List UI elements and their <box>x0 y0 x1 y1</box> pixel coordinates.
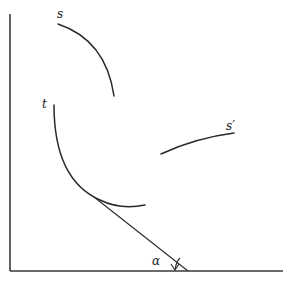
label-s: s <box>57 7 63 21</box>
label-t: t <box>42 97 47 111</box>
label-s-prime: s′ <box>226 119 235 133</box>
label-alpha: α <box>152 254 160 268</box>
curve-s-prime <box>161 133 234 154</box>
tangent-line <box>94 197 188 271</box>
diagram-canvas: s t s′ α <box>0 0 290 289</box>
curve-t <box>54 105 145 207</box>
curve-s <box>58 24 114 96</box>
